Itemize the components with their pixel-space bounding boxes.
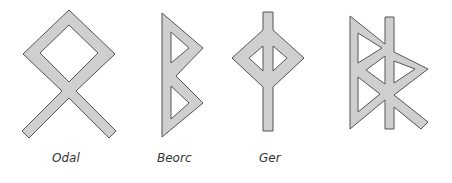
bind-rune-icon <box>350 16 428 129</box>
beorc-label: Beorc <box>157 151 192 165</box>
beorc-rune-icon <box>162 13 203 137</box>
ger-label: Ger <box>259 151 281 165</box>
odal-label: Odal <box>52 151 80 165</box>
ger-rune-icon <box>232 12 304 131</box>
odal-rune-icon <box>22 10 116 138</box>
